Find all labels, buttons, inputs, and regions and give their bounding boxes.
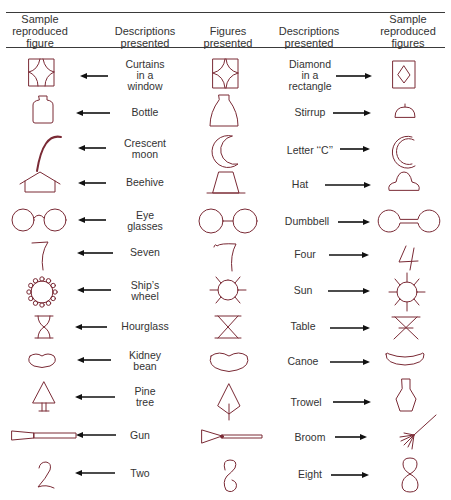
left-description-row-8: Hourglass: [112, 321, 178, 332]
right-arrow-row-4: [325, 182, 371, 188]
reproduced-two-icon: [36, 460, 56, 490]
left-arrow-row-5: [78, 217, 108, 223]
left-description-row-5: Eye glasses: [115, 210, 175, 232]
left-arrow-row-6: [77, 250, 115, 256]
left-arrow-row-4: [78, 180, 108, 186]
reproduced-dumbbell-icon: [376, 207, 442, 235]
left-arrow-row-8: [75, 324, 109, 330]
left-arrow-row-9: [77, 357, 113, 363]
figure-sun-icon: [208, 270, 248, 310]
left-description-row-6: Seven: [115, 247, 175, 258]
reproduced-gun-icon: [10, 428, 78, 442]
left-description-row-1: Curtains in a window: [115, 59, 175, 92]
left-description-row-12: Two: [115, 468, 165, 479]
figure-kite-icon: [216, 382, 242, 422]
left-arrow-row-3: [78, 145, 108, 151]
left-description-row-7: Ship’s wheel: [115, 280, 175, 302]
left-arrow-row-12: [75, 470, 117, 476]
right-arrow-row-2: [333, 110, 371, 116]
reproduced-curtains-in-window-icon: [28, 58, 56, 88]
right-description-row-5: Dumbbell: [272, 216, 342, 227]
figure-flask-icon: [208, 94, 240, 128]
header-figures-presented: Figures presented: [198, 25, 258, 49]
reproduced-four-icon: [396, 244, 420, 272]
left-description-row-3: Crescent moon: [115, 138, 175, 160]
right-arrow-row-1: [336, 73, 372, 79]
reproduced-table-icon: [390, 315, 422, 341]
reproduced-pine-tree-icon: [31, 380, 57, 414]
reproduced-sun-icon: [387, 270, 427, 314]
figure-s-curve-icon: [220, 458, 240, 494]
reproduced-hat-icon: [386, 170, 422, 192]
right-description-row-11: Broom: [280, 432, 340, 443]
reproduced-bottle-icon: [31, 95, 55, 125]
reproduced-hourglass-icon: [33, 314, 55, 340]
reproduced-trowel-icon: [394, 377, 418, 413]
right-arrow-row-11: [335, 434, 367, 440]
reproduced-ships-wheel-icon: [24, 274, 60, 310]
figure-wedge-rod-icon: [200, 428, 264, 446]
right-arrow-row-10: [333, 399, 371, 405]
reproduced-kidney-bean-icon: [26, 350, 58, 370]
left-description-row-9: Kidney bean: [115, 350, 175, 372]
reproduced-broom-icon: [396, 413, 438, 451]
right-arrow-row-9: [330, 359, 370, 365]
left-description-row-11: Gun: [115, 430, 165, 441]
header-sample-reproduced-left: Sample reproduced figure: [4, 13, 76, 49]
left-description-row-4: Beehive: [115, 177, 175, 188]
left-arrow-row-2: [76, 110, 112, 116]
figure-bean-icon: [207, 348, 251, 374]
left-description-row-2: Bottle: [115, 107, 175, 118]
right-arrow-row-12: [331, 472, 369, 478]
figure-crescent-icon: [210, 134, 240, 170]
right-arrow-row-6: [329, 252, 369, 258]
reproduced-eight-icon: [400, 456, 420, 494]
reproduced-stirrup-icon: [393, 103, 417, 119]
right-arrow-row-7: [328, 288, 370, 294]
right-description-row-6: Four: [280, 249, 330, 260]
right-description-row-7: Sun: [278, 285, 328, 296]
left-description-row-10: Pine tree: [115, 386, 175, 408]
figure-trapezoid-icon: [205, 170, 247, 196]
figure-two-circles-icon: [198, 207, 258, 235]
right-description-row-8: Table: [278, 321, 328, 332]
figure-curtains-window-icon: [212, 58, 240, 90]
figure-hourglass-icon: [213, 314, 243, 340]
figure-seven-icon: [212, 241, 240, 273]
header-descriptions-left: Descriptions presented: [105, 25, 185, 49]
left-arrow-row-7: [77, 287, 113, 293]
right-arrow-row-8: [330, 325, 370, 331]
right-description-row-4: Hat: [275, 179, 325, 190]
left-arrow-row-11: [76, 432, 118, 438]
right-description-row-2: Stirrup: [280, 107, 340, 118]
right-arrow-row-3: [340, 146, 370, 152]
right-description-row-9: Canoe: [278, 356, 328, 367]
header-sample-reproduced-right: Sample reproduced figures: [370, 13, 446, 49]
reproduced-eye-glasses-icon: [10, 206, 68, 234]
reproduced-crescent-moon-icon: [33, 133, 63, 173]
reproduced-letter-c-icon: [390, 134, 418, 170]
right-description-row-1: Diamond in a rectangle: [280, 59, 340, 92]
reproduced-diamond-in-rectangle-icon: [392, 60, 416, 90]
reproduced-seven-icon: [30, 240, 52, 272]
reproduced-beehive-icon: [18, 170, 62, 194]
reproduced-canoe-icon: [383, 350, 427, 368]
header-descriptions-right: Descriptions presented: [268, 25, 350, 49]
right-description-row-3: Letter ‘‘C’’: [275, 145, 345, 156]
left-arrow-row-10: [75, 394, 117, 400]
right-arrow-row-5: [338, 219, 370, 225]
left-arrow-row-1: [80, 73, 110, 79]
right-description-row-10: Trowel: [278, 397, 334, 408]
